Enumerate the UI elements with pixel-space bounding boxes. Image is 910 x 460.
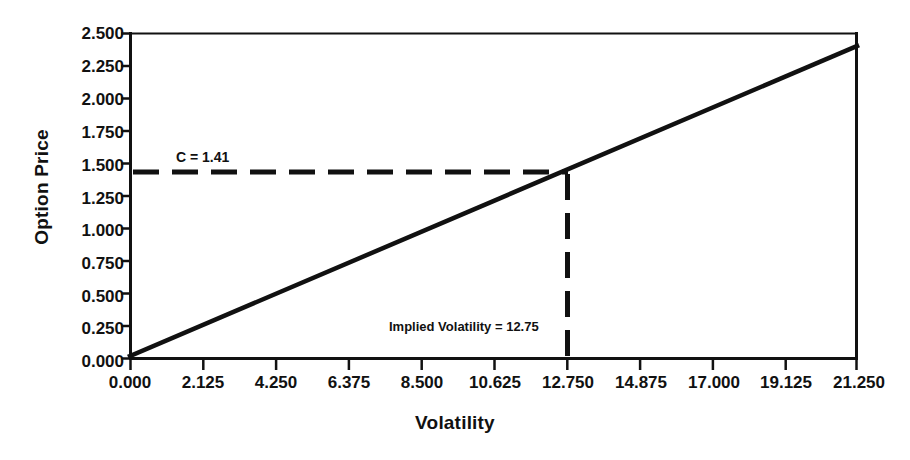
x-tick-marks (131, 359, 857, 370)
option-price-volatility-chart: Option Price 2.500 2.250 2.000 1.750 1.5… (0, 0, 910, 460)
plot-area (0, 0, 910, 460)
y-tick-marks (121, 34, 130, 359)
option-price-line (130, 46, 857, 356)
